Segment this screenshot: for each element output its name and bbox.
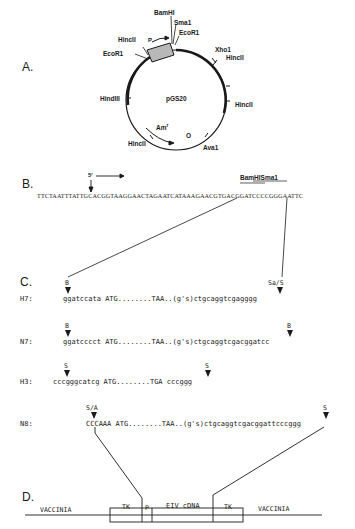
n7-right-site: B <box>287 322 291 330</box>
five-prime-label: 5' <box>88 172 93 178</box>
panel-a-label: A. <box>22 60 33 74</box>
site-hincii-top: HincII <box>118 36 136 43</box>
eiv-cdna-label: EIV cDNA <box>166 502 200 510</box>
panel-c-label: C. <box>20 275 32 289</box>
site-hincii-right-lower: HincII <box>235 101 253 108</box>
plasmid-name: pGS20 <box>166 95 187 102</box>
h7-label: H7: <box>20 295 33 303</box>
h3-left-site: S <box>64 362 68 370</box>
site-hincii-right-upper: HincII <box>226 54 244 61</box>
vaccinia-right-label: VACCINIA <box>258 505 289 513</box>
plasmid-map <box>126 16 230 150</box>
panel-d-label: D. <box>22 490 34 504</box>
site-ecor1-right: EcoR1 <box>179 29 199 36</box>
h7-sequence: ggatccata ATG........TAA..(g's)ctgcaggtc… <box>63 295 257 303</box>
h3-sequence: cccgggcatcg ATG........TGA cccggg <box>53 378 192 386</box>
origin-label: O <box>186 132 191 139</box>
h7-left-site: B <box>65 279 69 287</box>
site-ava1: Ava1 <box>203 144 218 151</box>
promoter-sequence: TTCTAATTTATTGCACGGTAAGGAACTAGAATCATAAAGA… <box>37 192 303 199</box>
promoter-label-a: P <box>148 37 152 43</box>
cut-site-arrows <box>64 287 329 419</box>
promoter-label-d: P <box>145 504 149 512</box>
site-bamhi: BamHI <box>154 9 175 16</box>
panel-b-label: B. <box>22 177 33 191</box>
sequence-b-graphics <box>68 174 287 277</box>
site-hindiii: HindIII <box>100 95 120 102</box>
h7-right-site: Sa/S <box>268 279 284 287</box>
vaccinia-left-label: VACCINIA <box>40 506 71 514</box>
n7-left-site: B <box>65 322 69 330</box>
h3-label: H3: <box>20 378 33 386</box>
n7-sequence: ggatcccct ATG........TAA..(g's)ctgcaggtc… <box>63 338 270 346</box>
tk-right-label: TK <box>224 503 232 511</box>
site-hincii-bottom: HincII <box>128 140 146 147</box>
figure-graphics <box>0 0 355 529</box>
site-ecor1-left: EcoR1 <box>103 50 123 57</box>
site-sma1: Sma1 <box>174 19 191 26</box>
bamhi-sma1-label: BamHISma1 <box>240 174 278 181</box>
amp-resistance-label: Amr <box>156 122 168 131</box>
n8-sequence: CCCAAA ATG........TAA..(g's)ctgcaggtcgac… <box>86 420 301 428</box>
n8-label: N8: <box>20 420 33 428</box>
n8-left-site: S/A <box>86 404 98 412</box>
h3-right-site: S <box>205 362 209 370</box>
site-xho1: Xho1 <box>215 46 231 53</box>
n7-label: N7: <box>20 338 33 346</box>
tk-left-label: TK <box>122 503 130 511</box>
n8-right-site: S <box>323 404 327 412</box>
